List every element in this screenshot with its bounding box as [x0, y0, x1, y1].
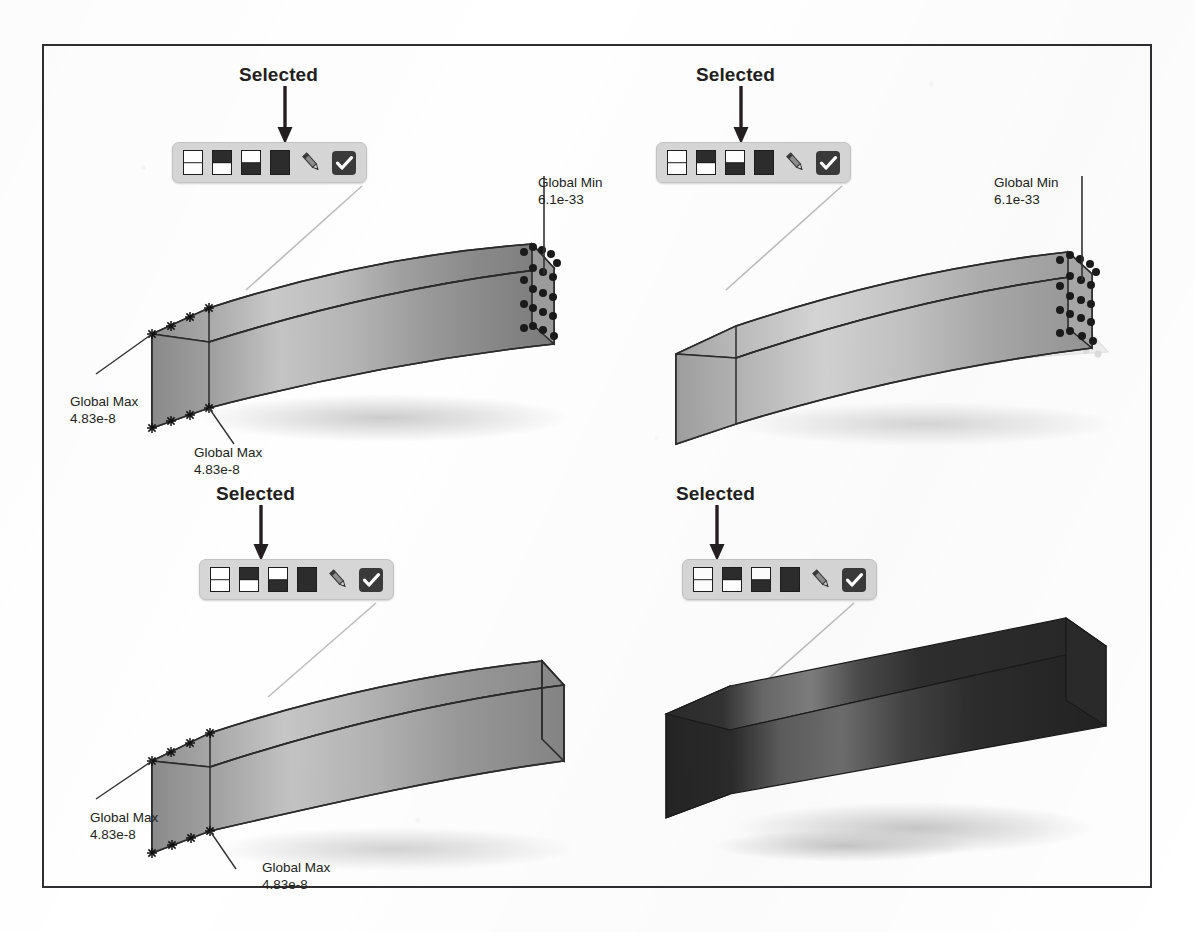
panel-4: Selected	[604, 461, 1154, 886]
panel-1-beam-model	[84, 156, 604, 456]
panel-4-selected-label: Selected	[676, 483, 755, 505]
global-max-value: 4.83e-8	[70, 410, 138, 427]
panel-2-selected-label: Selected	[696, 64, 775, 86]
global-min-label: Global Min	[994, 174, 1059, 191]
panel-4-toolbar[interactable]	[682, 559, 877, 600]
global-max-label: Global Max	[90, 809, 158, 826]
edit-pencil-icon[interactable]	[809, 567, 833, 592]
panel-1-selected-arrow	[270, 86, 300, 146]
display-style-shaded-edges-icon[interactable]	[722, 567, 742, 592]
panel-1: Selected	[44, 46, 604, 466]
panel-2-global-min-callout: Global Min 6.1e-33	[994, 174, 1059, 209]
global-min-label: Global Min	[538, 174, 603, 191]
panel-1-global-max-upper-callout: Global Max 4.83e-8	[70, 393, 138, 428]
panel-4-beam-model	[614, 596, 1134, 886]
panel-2: Selected	[604, 46, 1154, 466]
display-style-shaded-no-edges-icon[interactable]	[751, 567, 771, 592]
panel-3-selected-label: Selected	[216, 483, 295, 505]
global-min-value: 6.1e-33	[538, 191, 603, 208]
global-max-value: 4.83e-8	[90, 826, 158, 843]
figure-frame: Selected	[42, 44, 1152, 888]
display-style-solid-icon[interactable]	[780, 567, 800, 592]
global-max-label: Global Max	[70, 393, 138, 410]
global-max-label: Global Max	[194, 444, 262, 461]
global-max-value: 4.83e-8	[262, 876, 330, 893]
panel-2-selected-arrow	[726, 86, 756, 146]
panel-3-global-max-lower-callout: Global Max 4.83e-8	[262, 859, 330, 894]
global-min-value: 6.1e-33	[994, 191, 1059, 208]
apply-check-icon[interactable]	[842, 568, 866, 592]
panel-1-selected-label: Selected	[239, 64, 318, 86]
panel-1-global-min-callout: Global Min 6.1e-33	[538, 174, 603, 209]
display-style-wireframe-icon[interactable]	[693, 567, 713, 592]
panel-3: Selected	[44, 461, 604, 886]
global-max-label: Global Max	[262, 859, 330, 876]
panel-3-beam-model	[84, 581, 604, 881]
panel-3-selected-arrow	[246, 505, 276, 563]
panel-3-global-max-upper-callout: Global Max 4.83e-8	[90, 809, 158, 844]
panel-4-selected-arrow	[702, 505, 732, 563]
panel-2-beam-model	[624, 156, 1144, 456]
